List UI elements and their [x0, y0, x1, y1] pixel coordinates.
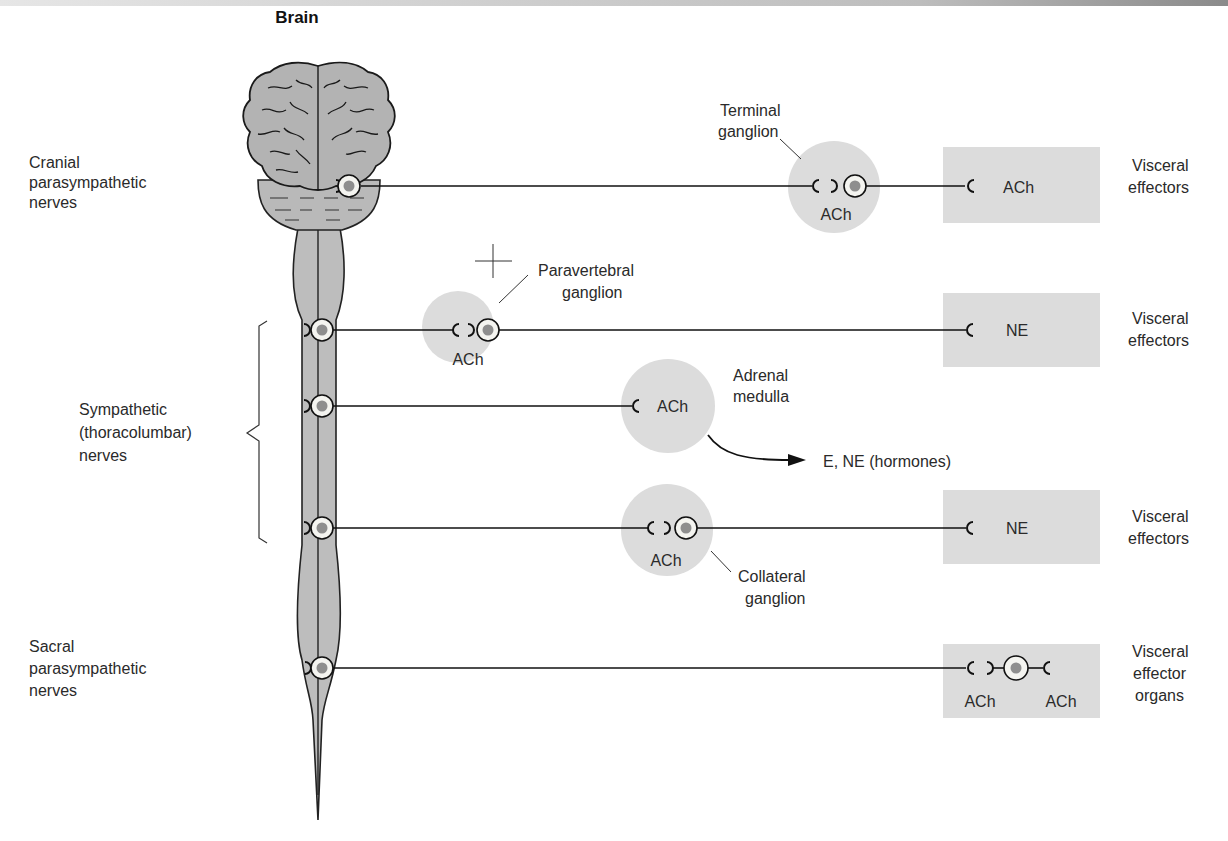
effector-label: Visceral [1132, 508, 1189, 525]
effector-label: effector [1133, 665, 1187, 682]
organ-label: Adrenal [733, 367, 788, 384]
sympathetic-brace [247, 321, 267, 543]
label-sacral-parasympathetic: Sacral parasympathetic nerves [29, 638, 146, 699]
effector-label: organs [1135, 687, 1184, 704]
transmitter-label: ACh [452, 351, 483, 368]
crosshair-mark [475, 244, 512, 278]
effector-label: effectors [1128, 332, 1189, 349]
svg-text:nerves: nerves [79, 447, 127, 464]
ganglion-label: Paravertebral [538, 262, 634, 279]
diagram-canvas: Brain Cranial parasympathetic nerves Sym… [0, 0, 1228, 841]
row-cranial: ACh ACh Terminal ganglion Visceral effec… [336, 102, 1189, 233]
svg-text:Sympathetic: Sympathetic [79, 401, 167, 418]
brain-illustration [243, 63, 395, 230]
svg-text:(thoracolumbar): (thoracolumbar) [79, 424, 192, 441]
autonomic-nervous-system-diagram: Brain Cranial parasympathetic nerves Sym… [0, 0, 1228, 841]
row-sympathetic-paravertebral: ACh NE Paravertebral ganglion Visceral e… [304, 244, 1189, 368]
svg-text:Sacral: Sacral [29, 638, 74, 655]
ganglion-label: ganglion [745, 590, 806, 607]
label-cranial-parasympathetic: Cranial parasympathetic nerves [29, 154, 146, 211]
effector-label: Visceral [1132, 310, 1189, 327]
svg-text:parasympathetic: parasympathetic [29, 174, 146, 191]
transmitter-label: ACh [820, 206, 851, 223]
transmitter-label: ACh [964, 693, 995, 710]
effector-label: effectors [1128, 530, 1189, 547]
transmitter-label: ACh [657, 398, 688, 415]
row-sacral: ACh ACh Visceral effector organs [305, 643, 1189, 718]
transmitter-label: ACh [650, 552, 681, 569]
hormone-release-arrow [708, 435, 790, 460]
effector-label: Visceral [1132, 157, 1189, 174]
ganglion-label: ganglion [562, 284, 623, 301]
transmitter-label: NE [1006, 520, 1028, 537]
hormone-output-label: E, NE (hormones) [823, 453, 951, 470]
svg-text:parasympathetic: parasympathetic [29, 660, 146, 677]
effector-label: Visceral [1132, 643, 1189, 660]
effector-label: effectors [1128, 179, 1189, 196]
organ-label: medulla [733, 388, 789, 405]
ganglion-label: Collateral [738, 568, 806, 585]
transmitter-label: ACh [1045, 693, 1076, 710]
transmitter-label: ACh [1003, 179, 1034, 196]
arrowhead-icon [788, 454, 806, 466]
row-sympathetic-collateral: ACh NE Collateral ganglion Visceral effe… [304, 484, 1189, 607]
row-sympathetic-adrenal: ACh Adrenal medulla E, NE (hormones) [304, 359, 951, 470]
transmitter-label: NE [1006, 322, 1028, 339]
label-sympathetic: Sympathetic (thoracolumbar) nerves [79, 401, 192, 464]
ganglion-label: Terminal [720, 102, 780, 119]
ganglion-label: ganglion [718, 123, 779, 140]
brain-title: Brain [275, 8, 318, 27]
svg-text:Cranial: Cranial [29, 154, 80, 171]
svg-text:nerves: nerves [29, 194, 77, 211]
svg-text:nerves: nerves [29, 682, 77, 699]
